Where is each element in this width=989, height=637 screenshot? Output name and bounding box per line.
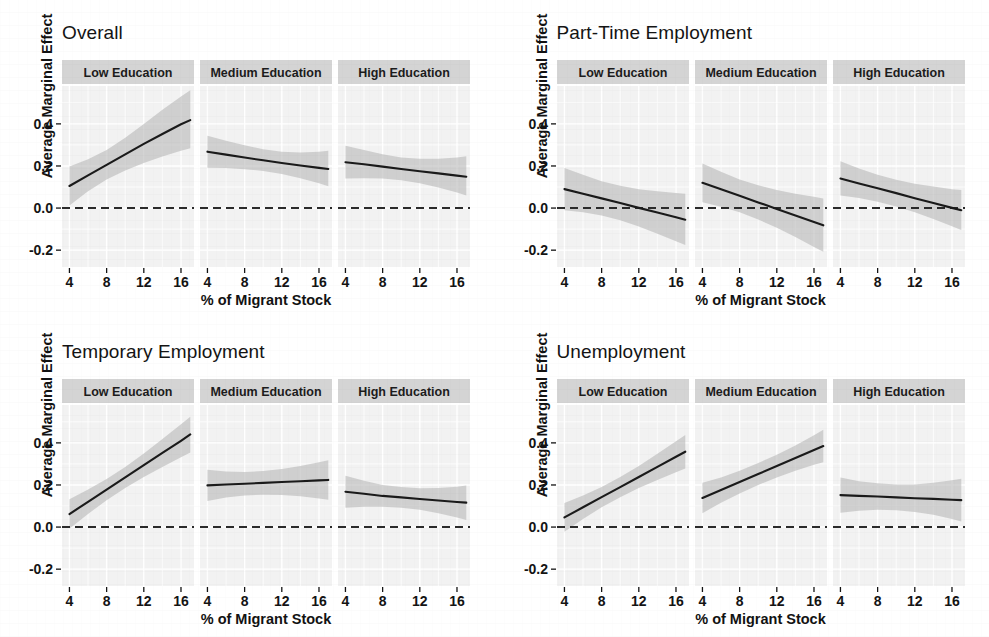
panel-strip-label: Low Education [578,385,667,399]
y-tick-label: 0.2 [34,476,54,492]
x-tick-label: 8 [241,593,249,609]
x-tick-label: 8 [873,274,881,290]
x-tick-label: 4 [698,593,706,609]
figure-panel-grid: Overall Average Marginal Effect % of Mig… [0,0,989,637]
x-tick-label: 8 [103,274,111,290]
x-tick-label: 4 [560,274,568,290]
x-tick-label: 16 [311,593,327,609]
plot-unemployment: 0.40.20.0-0.2Low Education481216Medium E… [495,319,989,637]
x-tick-label: 4 [698,274,706,290]
x-tick-label: 16 [668,274,684,290]
y-tick-label: 0.4 [528,116,548,132]
x-tick-label: 16 [449,274,465,290]
x-tick-label: 16 [449,593,465,609]
x-tick-label: 12 [769,274,785,290]
y-tick-label: 0.2 [528,476,548,492]
x-tick-label: 8 [241,274,249,290]
facet-panel: High Education [833,379,965,586]
x-tick-label: 8 [735,593,743,609]
y-tick-label: -0.2 [29,242,53,258]
x-tick-label: 4 [836,274,844,290]
x-tick-label: 16 [806,274,822,290]
x-tick-label: 16 [173,274,189,290]
panel-strip-label: High Education [358,385,450,399]
x-tick-label: 8 [735,274,743,290]
x-tick-label: 12 [412,593,428,609]
x-tick-label: 4 [66,274,74,290]
facet-panel: Medium Education [200,379,332,586]
panel-strip-label: High Education [358,66,450,80]
y-tick-label: -0.2 [523,242,547,258]
x-tick-label: 12 [907,593,923,609]
facet-panel: Low Education [62,379,194,586]
x-tick-label: 16 [944,274,960,290]
y-tick-label: -0.2 [523,561,547,577]
x-tick-label: 12 [412,274,428,290]
x-tick-label: 12 [136,593,152,609]
panel-strip-label: High Education [853,385,945,399]
panel-strip-label: Low Education [84,385,173,399]
panel-strip-label: Medium Education [210,66,321,80]
facet-panel: Medium Education [695,379,827,586]
x-tick-label: 16 [944,593,960,609]
x-tick-label: 4 [66,593,74,609]
y-tick-label: 0.4 [34,116,54,132]
panel-strip-label: Medium Education [705,66,816,80]
y-tick-label: 0.4 [528,434,548,450]
quadrant-overall: Overall Average Marginal Effect % of Mig… [0,0,495,319]
panel-strip-label: High Education [853,66,945,80]
x-tick-label: 4 [342,593,350,609]
panel-strip-label: Low Education [84,66,173,80]
x-tick-label: 4 [204,274,212,290]
facet-panel: High Education [338,60,470,267]
x-tick-label: 4 [836,593,844,609]
facet-panel: Low Education [557,379,689,586]
panel-strip-label: Medium Education [705,385,816,399]
plot-overall: 0.40.20.0-0.2Low Education481216Medium E… [0,0,495,300]
quadrant-part-time-employment: Part-Time Employment Average Marginal Ef… [495,0,989,319]
y-tick-label: 0.0 [34,519,54,535]
x-tick-label: 16 [668,593,684,609]
x-tick-label: 12 [136,274,152,290]
y-tick-label: 0.0 [528,200,548,216]
x-tick-label: 12 [769,593,785,609]
y-tick-label: 0.4 [34,434,54,450]
plot-part-time-employment: 0.40.20.0-0.2Low Education481216Medium E… [495,0,989,300]
x-tick-label: 8 [379,274,387,290]
y-tick-label: 0.0 [34,200,54,216]
x-tick-label: 12 [907,274,923,290]
x-tick-label: 4 [560,593,568,609]
x-tick-label: 16 [806,593,822,609]
panel-strip-label: Low Education [578,66,667,80]
x-tick-label: 4 [204,593,212,609]
y-tick-label: 0.0 [528,519,548,535]
facet-panel: Low Education [557,60,689,267]
quadrant-temporary-employment: Temporary Employment Average Marginal Ef… [0,319,495,637]
x-tick-label: 12 [274,274,290,290]
facet-panel: Low Education [62,60,194,267]
x-tick-label: 8 [379,593,387,609]
facet-panel: Medium Education [200,60,332,267]
facet-panel: High Education [338,379,470,586]
x-tick-label: 12 [274,593,290,609]
x-tick-label: 8 [103,593,111,609]
x-tick-label: 4 [342,274,350,290]
y-tick-label: 0.2 [528,158,548,174]
y-tick-label: -0.2 [29,561,53,577]
x-tick-label: 8 [873,593,881,609]
x-tick-label: 12 [631,274,647,290]
facet-panel: Medium Education [695,60,827,267]
panel-strip-label: Medium Education [210,385,321,399]
plot-temporary-employment: 0.40.20.0-0.2Low Education481216Medium E… [0,319,495,637]
x-tick-label: 16 [173,593,189,609]
y-tick-label: 0.2 [34,158,54,174]
x-tick-label: 8 [597,274,605,290]
facet-panel: High Education [833,60,965,267]
x-tick-label: 16 [311,274,327,290]
x-tick-label: 8 [597,593,605,609]
quadrant-unemployment: Unemployment Average Marginal Effect % o… [495,319,989,637]
x-tick-label: 12 [631,593,647,609]
